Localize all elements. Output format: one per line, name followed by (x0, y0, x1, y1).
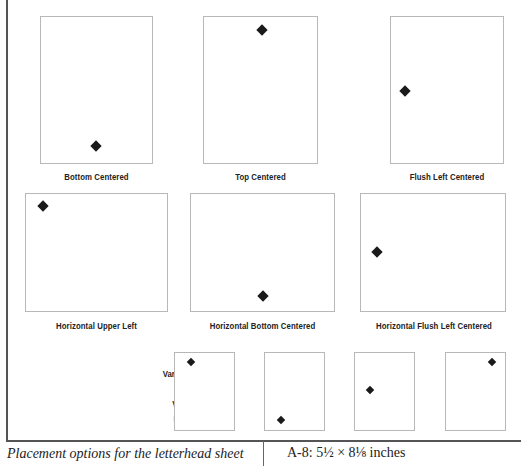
diamond-icon (187, 358, 195, 366)
sheet-top-centered (203, 16, 318, 164)
frame-left-rule (6, 0, 8, 441)
caption-divider (263, 441, 264, 466)
diamond-icon (366, 386, 374, 394)
sheet-horizontal-upper-left (25, 193, 168, 312)
diamond-icon (256, 24, 267, 35)
variation-upper-left (174, 352, 235, 431)
layout-label: Bottom Centered (47, 171, 146, 182)
layout-label: Horizontal Upper Left (34, 320, 159, 331)
diamond-icon (90, 140, 101, 151)
figure-title: A-8: 5½ × 8⅛ inches (287, 445, 405, 461)
variation-bottom-left (264, 352, 325, 431)
layout-label: Top Centered (211, 171, 310, 182)
layout-label: Flush Left Centered (394, 171, 501, 182)
sheet-horizontal-flush-left-centered (360, 193, 506, 312)
sheet-horizontal-bottom-centered (190, 193, 335, 312)
diamond-icon (277, 416, 285, 424)
figure-caption: Placement options for the letterhead she… (7, 446, 244, 462)
diamond-icon (37, 200, 48, 211)
diamond-icon (257, 290, 268, 301)
layout-label: Horizontal Flush Left Centered (363, 320, 504, 331)
diamond-icon (399, 85, 410, 96)
sheet-bottom-centered (40, 16, 153, 164)
sheet-flush-left-centered (390, 16, 504, 164)
layout-label: Horizontal Bottom Centered (195, 320, 330, 331)
variation-upper-right (445, 352, 506, 431)
diamond-icon (371, 246, 382, 257)
variation-middle-left (354, 352, 415, 431)
diamond-icon (488, 358, 496, 366)
